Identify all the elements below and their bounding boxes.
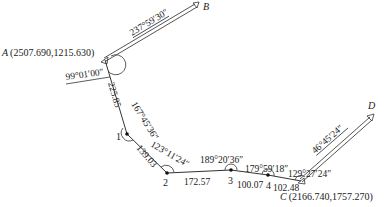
point-1-label: 1 — [116, 131, 121, 142]
distance-3-4: 100.07 — [237, 180, 263, 190]
station-1-dot — [125, 132, 129, 136]
point-a-label: A(2507.690,1215.630) — [1, 47, 94, 59]
traverse-diagram: A(2507.690,1215.630) B D C(2166.740,1757… — [0, 0, 389, 207]
azimuth-cd: 46°45′24″ — [310, 120, 348, 155]
svg-text:46°45′24″: 46°45′24″ — [310, 123, 346, 156]
triangle-d-icon — [367, 114, 374, 121]
point-d-label: D — [367, 100, 376, 111]
angle-1: 167°45′36″ — [129, 100, 160, 142]
angle-c: 129°27′24″ — [288, 169, 331, 179]
point-2-label: 2 — [163, 177, 168, 188]
angle-3: 189°20′36″ — [200, 155, 243, 165]
distance-2-3: 172.57 — [184, 177, 210, 187]
svg-text:99°01′00″: 99°01′00″ — [65, 67, 104, 82]
distance-4-c: 102.48 — [273, 183, 299, 193]
point-3-label: 3 — [228, 175, 233, 186]
point-4-label: 4 — [266, 180, 271, 191]
angle-4: 179°59′18″ — [245, 164, 288, 174]
known-line-ab — [104, 2, 199, 61]
station-2-dot — [165, 171, 169, 175]
station-3-dot — [229, 168, 233, 172]
point-b-label: B — [203, 1, 209, 12]
angle-a: 99°01′00″ — [65, 67, 110, 84]
distance-a-1: 225.85 — [106, 81, 123, 109]
